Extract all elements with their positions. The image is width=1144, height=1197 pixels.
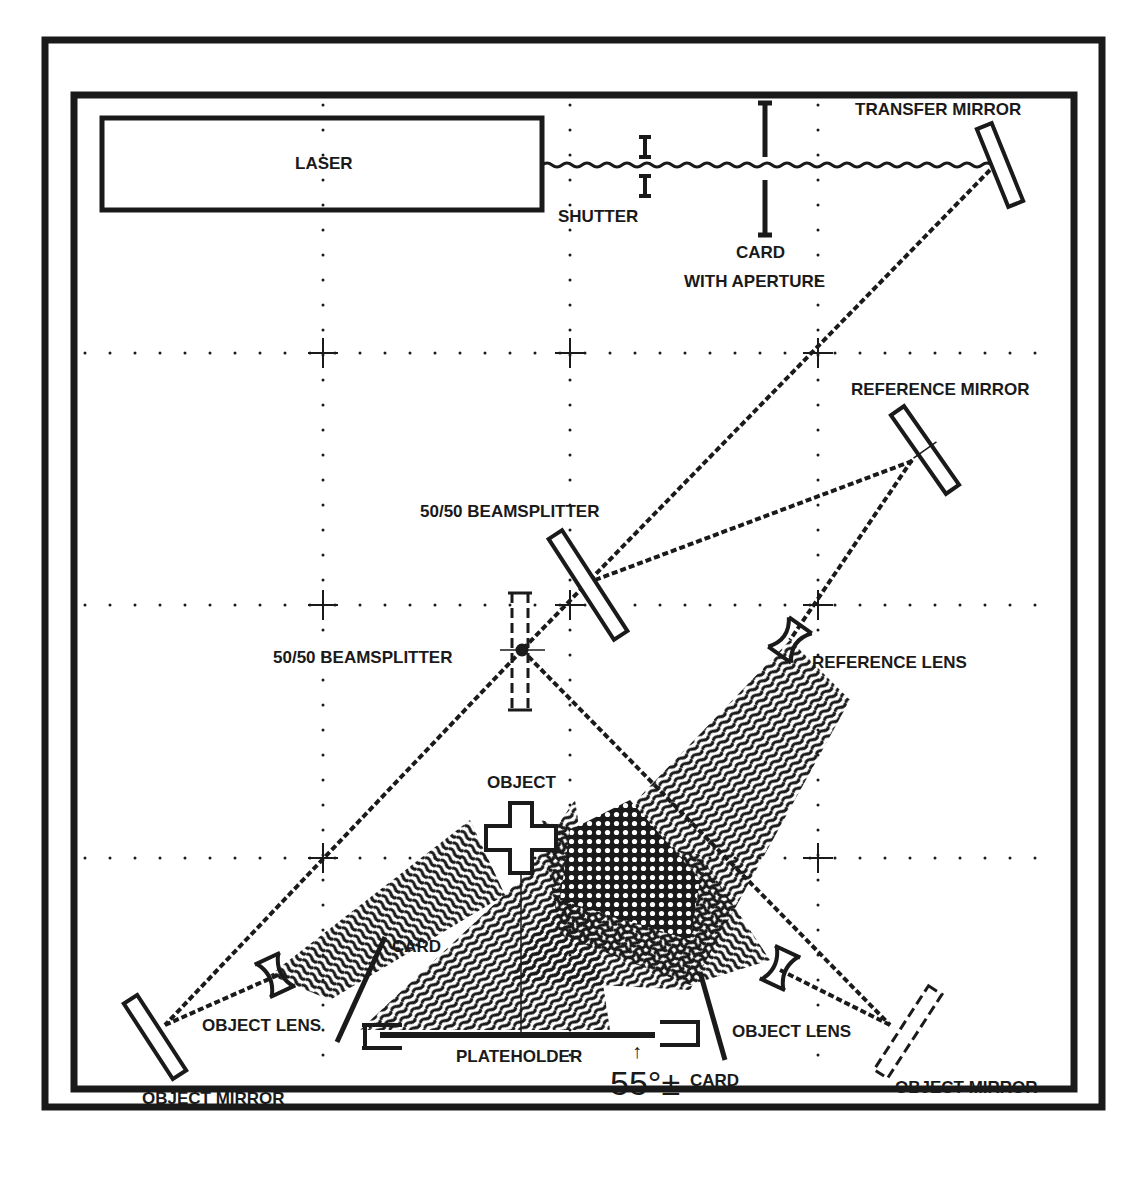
beam-rightmirror-to-lens <box>780 970 890 1025</box>
reference-lens-label: REFERENCE LENS <box>812 653 967 672</box>
object-mirror-right-icon <box>874 986 942 1079</box>
card-aperture-label-2: WITH APERTURE <box>684 272 825 291</box>
card-right-icon <box>700 972 725 1060</box>
beam-bs1-to-refmirror <box>595 460 915 580</box>
plateholder-label: PLATEHOLDER <box>456 1047 582 1066</box>
beam-laser-to-transfer <box>542 163 992 167</box>
card-aperture-label-1: CARD <box>736 243 785 262</box>
beam-refmirror-to-reflens <box>790 460 912 640</box>
card-left-label: CARD <box>392 937 441 956</box>
object-label: OBJECT <box>487 773 557 792</box>
object-mirror-right-label: OBJECT MIRROR <box>895 1078 1038 1097</box>
shutter-label: SHUTTER <box>558 207 638 226</box>
angle-arrow-icon: ↑ <box>632 1040 642 1062</box>
beam-transfer-to-bs1 <box>590 170 990 580</box>
holography-diagram: LASER SHUTTER CARD WITH APERTURE TRANSFE… <box>0 0 1144 1197</box>
reference-mirror-label: REFERENCE MIRROR <box>851 380 1030 399</box>
angle-label: 55°± <box>610 1064 680 1102</box>
object-lens-right-icon <box>760 946 801 990</box>
beamsplitter-upper-label: 50/50 BEAMSPLITTER <box>420 502 600 521</box>
object-lens-left-label: OBJECT LENS <box>202 1016 321 1035</box>
transfer-mirror-label: TRANSFER MIRROR <box>855 100 1021 119</box>
object-mirror-left-icon <box>124 995 186 1079</box>
beamsplitter-upper-icon <box>549 530 628 639</box>
object-mirror-left-label: OBJECT MIRROR <box>142 1089 285 1108</box>
laser-label: LASER <box>295 154 353 173</box>
card-aperture-icon <box>758 103 772 235</box>
beamsplitter-lower-label: 50/50 BEAMSPLITTER <box>273 648 453 667</box>
object-lens-right-label: OBJECT LENS <box>732 1022 851 1041</box>
card-right-label: CARD <box>690 1071 739 1090</box>
beamsplitter-lower-icon <box>500 593 545 710</box>
